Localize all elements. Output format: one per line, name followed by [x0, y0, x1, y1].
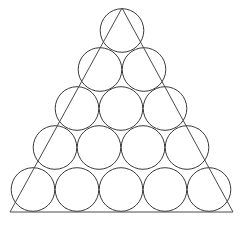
circle-r3-c3	[143, 87, 187, 131]
circle-r5-c2	[55, 168, 99, 212]
circle-r4-c4	[165, 126, 209, 170]
circle-r1-c1	[100, 9, 144, 53]
circle-r3-c2	[99, 87, 143, 131]
circle-r5-c1	[11, 168, 55, 212]
circle-r3-c1	[55, 87, 99, 131]
circle-r5-c3	[99, 168, 143, 212]
circle-r4-c3	[121, 126, 165, 170]
circle-r5-c5	[187, 168, 231, 212]
figure-canvas	[0, 0, 244, 226]
geometry-figure	[0, 0, 244, 226]
circle-r5-c4	[143, 168, 187, 212]
circle-r4-c2	[77, 126, 121, 170]
circle-r4-c1	[33, 126, 77, 170]
circle-r2-c2	[122, 48, 166, 92]
circle-r2-c1	[78, 48, 122, 92]
